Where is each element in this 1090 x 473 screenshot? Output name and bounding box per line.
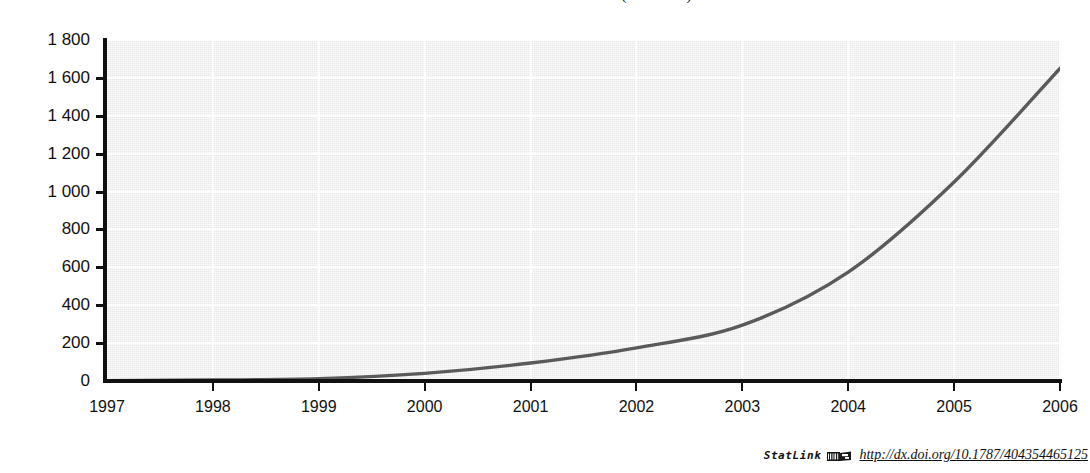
plot-area (107, 40, 1060, 381)
x-tick-mark (318, 383, 320, 391)
x-tick-mark (741, 383, 743, 391)
chart-title: Broadband subscribers in the OECD (thous… (0, 0, 1090, 3)
y-tick-label: 800 (6, 220, 90, 237)
y-tick-mark (96, 153, 104, 156)
x-tick-label: 2006 (1020, 398, 1090, 416)
statlink-url[interactable]: http://dx.doi.org/10.1787/404354465125 (859, 447, 1088, 463)
x-axis-line (103, 379, 1062, 383)
x-tick-label: 2003 (702, 398, 782, 416)
x-tick-label: 2000 (385, 398, 465, 416)
y-tick-mark (96, 77, 104, 80)
series-1-line (107, 68, 1060, 380)
y-tick-label: 400 (6, 296, 90, 313)
chart-figure: Broadband subscribers in the OECD (thous… (0, 0, 1090, 473)
data-line-series (107, 40, 1060, 381)
x-tick-mark (424, 383, 426, 391)
y-tick-mark (96, 191, 104, 194)
x-tick-mark (530, 383, 532, 391)
y-tick-label: 1 200 (6, 145, 90, 162)
y-tick-label: 1 800 (6, 31, 90, 48)
y-tick-label: 1 400 (6, 107, 90, 124)
y-tick-label: 600 (6, 258, 90, 275)
x-tick-mark (1059, 383, 1061, 391)
x-tick-label: 2001 (491, 398, 571, 416)
y-tick-label: 200 (6, 334, 90, 351)
statlink-label: StatLink (764, 449, 822, 462)
y-axis-line (103, 38, 107, 383)
x-tick-label: 1997 (67, 398, 147, 416)
statlink-footer: StatLink http://dx.doi.org/10.1787/40435… (764, 447, 1088, 463)
x-tick-mark (635, 383, 637, 391)
x-tick-label: 1998 (173, 398, 253, 416)
x-tick-label: 2002 (596, 398, 676, 416)
y-tick-label: 0 (6, 372, 90, 389)
y-tick-mark (96, 228, 104, 231)
y-tick-mark (96, 266, 104, 269)
x-tick-label: 1999 (279, 398, 359, 416)
x-tick-label: 2004 (808, 398, 888, 416)
y-tick-label: 1 000 (6, 183, 90, 200)
x-tick-mark (212, 383, 214, 391)
x-tick-mark (847, 383, 849, 391)
y-tick-mark (96, 342, 104, 345)
x-tick-mark (953, 383, 955, 391)
statlink-barcode-icon (827, 449, 853, 461)
y-tick-label: 1 600 (6, 69, 90, 86)
y-tick-mark (96, 115, 104, 118)
x-tick-label: 2005 (914, 398, 994, 416)
y-tick-mark (96, 304, 104, 307)
